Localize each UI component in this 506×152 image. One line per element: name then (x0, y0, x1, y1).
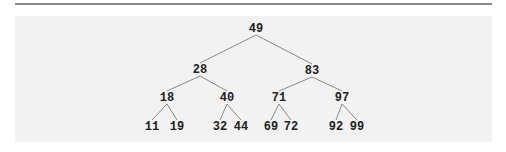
tree-edge (336, 104, 342, 120)
tree-node-69: 69 (264, 121, 278, 133)
tree-node-40: 40 (220, 92, 234, 104)
tree-node-97: 97 (335, 92, 349, 104)
tree-edge (227, 104, 241, 120)
tree-node-19: 19 (170, 121, 184, 133)
tree-edge (271, 104, 279, 120)
tree-node-71: 71 (272, 92, 286, 104)
tree-node-83: 83 (305, 65, 319, 77)
tree-edge (152, 104, 167, 120)
tree-node-72: 72 (284, 121, 298, 133)
tree-node-32: 32 (213, 121, 227, 133)
tree-edge (167, 104, 177, 120)
tree-edge (279, 104, 291, 120)
tree-node-44: 44 (234, 121, 248, 133)
tree-edge (256, 35, 312, 64)
tree-edge (220, 104, 227, 120)
tree-node-18: 18 (160, 92, 174, 104)
tree-edge (200, 76, 227, 91)
tree-edge (342, 104, 357, 120)
tree-edge (279, 77, 312, 91)
tree-edge (167, 76, 200, 91)
tree-node-11: 11 (145, 121, 159, 133)
tree-node-49: 49 (249, 23, 263, 35)
tree-edge (200, 35, 256, 63)
tree-edge (312, 77, 342, 91)
tree-node-99: 99 (350, 121, 364, 133)
tree-node-28: 28 (193, 64, 207, 76)
tree-node-92: 92 (329, 121, 343, 133)
